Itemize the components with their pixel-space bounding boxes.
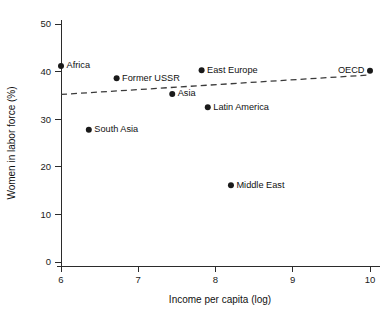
x-tick-group: 678910 — [58, 266, 375, 285]
data-point: Former USSR — [114, 73, 181, 83]
y-tick-label: 20 — [40, 161, 51, 172]
point-marker — [169, 91, 175, 97]
data-point: Middle East — [228, 180, 285, 190]
y-tick-label: 40 — [40, 66, 51, 77]
point-label: Asia — [178, 88, 197, 98]
y-tick-group: 01020304050 — [40, 18, 61, 267]
point-marker — [199, 67, 205, 73]
y-tick-label: 10 — [40, 209, 51, 220]
scatter-plot-figure: 01020304050 678910 AfricaSouth AsiaForme… — [0, 0, 388, 313]
chart-canvas: 01020304050 678910 AfricaSouth AsiaForme… — [0, 0, 388, 313]
point-label: Latin America — [213, 102, 270, 112]
point-label: South Asia — [94, 124, 139, 134]
point-marker — [367, 68, 373, 74]
y-tick-label: 0 — [46, 256, 51, 267]
trend-line-group — [61, 75, 370, 95]
point-marker — [205, 104, 211, 110]
y-tick-label: 30 — [40, 114, 51, 125]
data-point: Africa — [58, 60, 91, 70]
data-point: South Asia — [86, 124, 139, 134]
point-marker — [114, 75, 120, 81]
point-label: Africa — [67, 60, 91, 70]
data-points-group: AfricaSouth AsiaFormer USSRAsiaEast Euro… — [58, 60, 373, 189]
x-tick-label: 8 — [213, 274, 218, 285]
x-tick-label: 10 — [365, 274, 376, 285]
x-axis-title: Income per capita (log) — [169, 294, 271, 305]
point-label: East Europe — [207, 65, 258, 75]
data-point: Asia — [169, 88, 196, 98]
point-marker — [58, 63, 64, 69]
y-axis-title: Women in labor force (%) — [6, 86, 17, 199]
x-tick-label: 6 — [58, 274, 63, 285]
x-tick-label: 9 — [290, 274, 295, 285]
point-marker — [86, 127, 92, 133]
data-point: East Europe — [199, 65, 258, 75]
y-tick-label: 50 — [40, 18, 51, 29]
point-label: OECD — [338, 65, 365, 75]
data-point: Latin America — [205, 102, 270, 112]
point-label: Middle East — [236, 180, 284, 190]
point-label: Former USSR — [122, 73, 180, 83]
trend-line — [61, 75, 370, 95]
x-tick-label: 7 — [136, 274, 141, 285]
point-marker — [228, 182, 234, 188]
data-point: OECD — [338, 65, 373, 75]
